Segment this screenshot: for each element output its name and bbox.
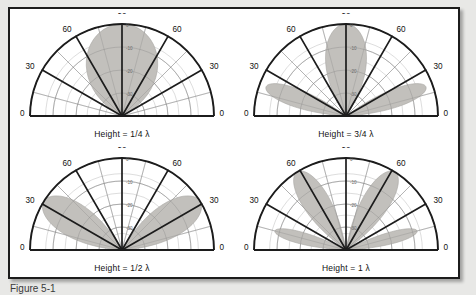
svg-text:30: 30 (434, 62, 444, 71)
svg-text:30: 30 (25, 196, 35, 205)
polar-chart-svg-2: 0306090603000-10-20-30 (14, 147, 230, 273)
polar-plot-three-quarter-lambda: 0306090603000-10-20-30 Height = 3/4 λ (234, 9, 458, 143)
svg-text:60: 60 (286, 159, 296, 168)
svg-text:30: 30 (210, 196, 220, 205)
polar-plot-half-lambda: 0306090603000-10-20-30 Height = 1/2 λ (10, 143, 234, 277)
svg-text:0: 0 (350, 157, 353, 162)
svg-text:0: 0 (443, 243, 448, 252)
polar-chart-svg-3: 0306090603000-10-20-30 (238, 147, 454, 273)
svg-text:-30: -30 (126, 92, 133, 97)
polar-plot-grid: 0306090603000-10-20-30 Height = 1/4 λ 03… (10, 9, 458, 277)
svg-text:-20: -20 (126, 203, 133, 208)
svg-text:60: 60 (173, 25, 183, 34)
svg-text:-30: -30 (126, 226, 133, 231)
svg-text:0: 0 (244, 109, 249, 118)
svg-text:60: 60 (62, 159, 72, 168)
svg-text:-20: -20 (350, 203, 357, 208)
svg-text:0: 0 (219, 109, 224, 118)
svg-text:0: 0 (20, 243, 25, 252)
svg-text:0: 0 (443, 109, 448, 118)
svg-text:-10: -10 (126, 46, 133, 51)
svg-text:30: 30 (25, 62, 35, 71)
svg-text:60: 60 (397, 159, 407, 168)
svg-text:0: 0 (350, 23, 353, 28)
svg-text:-30: -30 (350, 92, 357, 97)
svg-text:90: 90 (117, 147, 127, 150)
svg-text:30: 30 (249, 62, 259, 71)
svg-text:30: 30 (210, 62, 220, 71)
svg-text:0: 0 (126, 157, 129, 162)
svg-text:60: 60 (62, 25, 72, 34)
svg-text:-20: -20 (126, 69, 133, 74)
svg-text:-10: -10 (350, 180, 357, 185)
svg-text:-10: -10 (126, 180, 133, 185)
plot-caption-3: Height = 1 λ (234, 263, 458, 273)
svg-text:60: 60 (173, 159, 183, 168)
svg-text:-30: -30 (350, 226, 357, 231)
svg-text:0: 0 (244, 243, 249, 252)
plot-caption-0: Height = 1/4 λ (10, 129, 234, 139)
figure-panel: 0306090603000-10-20-30 Height = 1/4 λ 03… (8, 7, 460, 279)
svg-text:0: 0 (20, 109, 25, 118)
polar-plot-quarter-lambda: 0306090603000-10-20-30 Height = 1/4 λ (10, 9, 234, 143)
polar-plot-one-lambda: 0306090603000-10-20-30 Height = 1 λ (234, 143, 458, 277)
svg-text:0: 0 (219, 243, 224, 252)
svg-text:60: 60 (397, 25, 407, 34)
plot-caption-2: Height = 1/2 λ (10, 263, 234, 273)
svg-text:-10: -10 (350, 46, 357, 51)
polar-chart-svg-1: 0306090603000-10-20-30 (238, 13, 454, 139)
svg-text:-20: -20 (350, 69, 357, 74)
svg-text:90: 90 (117, 13, 127, 16)
svg-text:60: 60 (286, 25, 296, 34)
svg-text:90: 90 (341, 147, 351, 150)
svg-text:90: 90 (341, 13, 351, 16)
svg-text:30: 30 (249, 196, 259, 205)
plot-caption-1: Height = 3/4 λ (234, 129, 458, 139)
polar-chart-svg-0: 0306090603000-10-20-30 (14, 13, 230, 139)
svg-text:0: 0 (126, 23, 129, 28)
svg-text:30: 30 (434, 196, 444, 205)
figure-caption: Figure 5-1 (10, 283, 56, 295)
